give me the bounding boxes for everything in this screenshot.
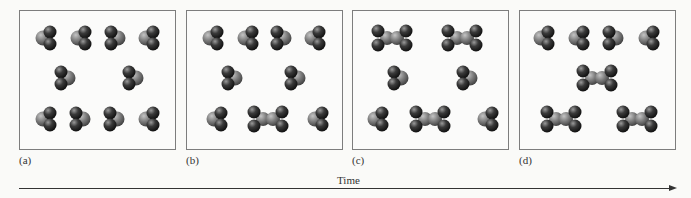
molecules-a: [36, 26, 160, 132]
label-c: (c): [352, 154, 364, 166]
arrow-right-icon: [669, 185, 677, 191]
time-axis-line: [19, 188, 671, 189]
label-b: (b): [186, 154, 199, 166]
molecule-layer: [0, 0, 691, 198]
molecules-c: [368, 25, 499, 133]
molecules-d: [534, 26, 660, 133]
label-d: (d): [519, 154, 532, 166]
label-a: (a): [19, 154, 31, 166]
time-axis-label: Time: [337, 174, 360, 186]
molecules-b: [203, 26, 329, 133]
